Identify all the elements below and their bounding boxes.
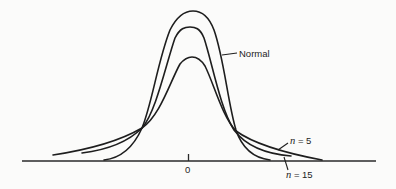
label-normal: Normal	[239, 49, 270, 59]
chart-canvas	[0, 0, 396, 189]
normal-leader-line	[222, 53, 237, 55]
n5-leader-line	[278, 143, 288, 150]
label-n5-value: = 5	[295, 135, 311, 146]
label-n15-value: = 15	[291, 169, 312, 180]
distribution-figure: Normal n = 5 n = 15 0	[0, 0, 396, 189]
label-n15: n = 15	[286, 170, 313, 181]
curve-n5	[53, 57, 322, 160]
curve-n15	[82, 27, 291, 156]
label-n5: n = 5	[290, 136, 311, 147]
tick-label-zero: 0	[185, 165, 190, 175]
